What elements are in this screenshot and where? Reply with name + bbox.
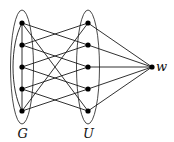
node-u3 — [85, 64, 90, 69]
label-g: G — [18, 126, 28, 141]
label-u: U — [83, 126, 95, 141]
node-g1 — [19, 20, 24, 25]
u-g-edges — [22, 23, 88, 111]
node-u5 — [85, 108, 90, 113]
node-g3 — [19, 64, 24, 69]
edge-w-u2 — [88, 45, 152, 67]
node-w — [149, 64, 154, 69]
edge-w-u5 — [88, 67, 152, 111]
edge-w-u4 — [88, 67, 152, 89]
edge-w-u1 — [88, 23, 152, 67]
label-w: w — [156, 59, 167, 74]
node-u4 — [85, 86, 90, 91]
node-g5 — [19, 108, 24, 113]
node-g4 — [19, 86, 24, 91]
node-u2 — [85, 42, 90, 47]
node-g2 — [19, 42, 24, 47]
mycielski-graph-diagram: G U w — [0, 0, 174, 142]
node-u1 — [85, 20, 90, 25]
u-nodes — [85, 20, 90, 113]
